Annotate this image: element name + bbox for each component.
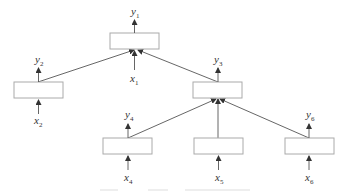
node-6: y6 x6 xyxy=(285,108,334,186)
output-label: y2 xyxy=(34,53,44,68)
tree-network-diagram: y1 x1 y2 x2 y3 y4 x4 x5 y6 x6 xyxy=(0,0,342,194)
node-4: y4 x4 xyxy=(103,108,152,186)
node-2: y2 x2 xyxy=(14,53,63,129)
tree-edges xyxy=(38,50,309,138)
output-label: y1 xyxy=(130,5,140,20)
input-label: x6 xyxy=(304,171,314,186)
node-box xyxy=(103,138,152,154)
output-label: y4 xyxy=(124,108,134,123)
input-label: x1 xyxy=(129,72,139,87)
edge-n2-to-n1 xyxy=(38,50,134,82)
node-3: y3 xyxy=(193,53,242,98)
input-label: x4 xyxy=(123,171,133,186)
node-box xyxy=(14,82,63,98)
input-label: x5 xyxy=(214,171,224,186)
edge-n3-to-n1 xyxy=(138,50,218,82)
figure-caption xyxy=(100,189,250,191)
node-box xyxy=(194,138,243,154)
output-label: y6 xyxy=(305,108,315,123)
node-box xyxy=(285,138,334,154)
node-1: y1 x1 xyxy=(110,5,159,87)
node-box xyxy=(110,33,159,49)
node-box xyxy=(193,82,242,98)
input-label: x2 xyxy=(33,114,43,129)
edge-n6-to-n3 xyxy=(220,99,309,138)
output-label: y3 xyxy=(213,53,223,68)
node-5: x5 xyxy=(194,138,243,186)
edge-n4-to-n3 xyxy=(128,99,216,138)
